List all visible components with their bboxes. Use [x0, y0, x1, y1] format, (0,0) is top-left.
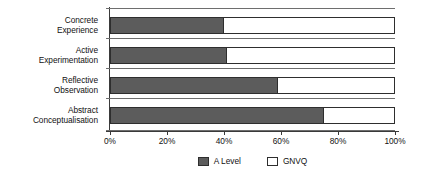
x-axis-tick-label: 40%	[216, 136, 233, 146]
x-axis-line	[106, 131, 399, 132]
plot-area	[110, 8, 395, 130]
y-axis-label-line-2: Experience	[0, 26, 98, 36]
x-axis-tick	[110, 131, 111, 135]
table-row[interactable]	[110, 107, 395, 124]
y-axis-label-line-1: Concrete	[65, 15, 98, 25]
chart-legend: A Level GNVQ	[110, 153, 395, 169]
y-axis-label-active-experimentation: Active Experimentation	[0, 46, 98, 65]
x-axis-tick-label: 60%	[273, 136, 290, 146]
category-separator	[106, 8, 395, 9]
bar-segment-a-level[interactable]	[110, 77, 278, 94]
y-axis-label-line-2: Experimentation	[0, 56, 98, 66]
category-separator	[106, 68, 395, 69]
category-separator	[106, 98, 395, 99]
y-axis-label-line-2: Conceptualisation	[0, 116, 98, 126]
x-axis-tick	[395, 131, 396, 135]
legend-label: GNVQ	[283, 156, 307, 166]
bar-segment-a-level[interactable]	[110, 47, 227, 64]
legend-swatch-icon	[267, 157, 278, 166]
x-axis-tick-label: 20%	[159, 136, 176, 146]
bar-segment-a-level[interactable]	[110, 107, 324, 124]
x-axis-tick	[167, 131, 168, 135]
table-row[interactable]	[110, 47, 395, 64]
stacked-bar-chart: Concrete Experience Active Experimentati…	[0, 0, 424, 174]
y-axis-label-line-1: Active	[76, 45, 98, 55]
x-axis-tick-label: 100%	[384, 136, 405, 146]
x-axis-tick-label: 0%	[104, 136, 116, 146]
y-axis-label-line-1: Abstract	[68, 105, 98, 115]
table-row[interactable]	[110, 77, 395, 94]
x-axis-tick	[338, 131, 339, 135]
y-axis-label-concrete-experience: Concrete Experience	[0, 16, 98, 35]
legend-swatch-icon	[198, 157, 209, 166]
x-axis-tick	[224, 131, 225, 135]
y-axis-label-line-2: Observation	[0, 86, 98, 96]
legend-label: A Level	[214, 156, 241, 166]
category-separator	[106, 38, 395, 39]
legend-item-a-level[interactable]: A Level	[198, 156, 241, 166]
legend-item-gnvq[interactable]: GNVQ	[267, 156, 307, 166]
table-row[interactable]	[110, 17, 395, 34]
y-axis-label-line-1: Reflective	[62, 75, 98, 85]
y-axis-category-labels: Concrete Experience Active Experimentati…	[0, 8, 104, 130]
y-axis-label-abstract-conceptualisation: Abstract Conceptualisation	[0, 106, 98, 125]
y-axis-label-reflective-observation: Reflective Observation	[0, 76, 98, 95]
bar-segment-a-level[interactable]	[110, 17, 224, 34]
x-axis-tick-label: 80%	[330, 136, 347, 146]
x-axis-tick	[281, 131, 282, 135]
